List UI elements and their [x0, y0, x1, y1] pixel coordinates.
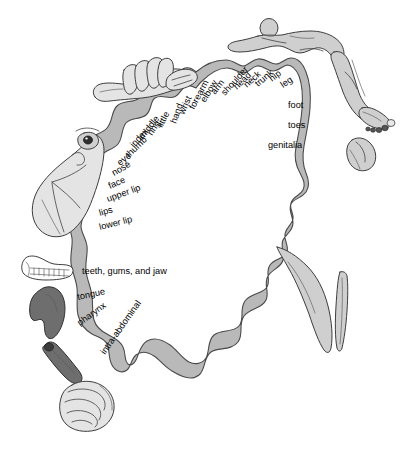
body-trunk-illustration	[228, 19, 344, 64]
label-teeth-gums-jaw: teeth, gums, and jaw	[82, 266, 167, 276]
right-lower-shapes	[277, 247, 348, 352]
label-foot: foot	[288, 100, 304, 110]
homunculus-diagram: handwristforearmelbowarmshoulderheadneck…	[0, 0, 401, 449]
face-illustration	[32, 128, 104, 237]
toe-1	[387, 120, 395, 127]
genitalia-shape	[347, 138, 376, 171]
pupil-highlight	[85, 137, 88, 139]
toe-2	[382, 125, 388, 131]
wing-shape	[277, 247, 332, 352]
face-outline	[32, 135, 104, 237]
jaw-teeth-illustration	[22, 256, 73, 280]
toe-3	[376, 128, 382, 133]
genitalia-illustration	[347, 138, 376, 171]
intestines-mass	[60, 381, 114, 431]
label-lips: lips	[98, 204, 114, 218]
homunculus-figure: handwristforearmelbowarmshoulderheadneck…	[0, 0, 401, 449]
narrow-strip-shape	[335, 272, 347, 351]
tongue-illustration	[30, 287, 65, 339]
hand-illustration	[93, 58, 197, 102]
intra-abdominal-illustration	[60, 381, 114, 431]
leg-foot-illustration	[331, 51, 395, 132]
pupil	[84, 136, 93, 144]
label-toes: toes	[288, 120, 306, 130]
body-trunk-shape	[228, 31, 344, 63]
cortex-labels-group: handwristforearmelbowarmshoulderheadneck…	[75, 64, 305, 356]
toe-4	[371, 128, 376, 132]
toe-5	[366, 127, 370, 131]
label-genitalia: genitalia	[268, 140, 303, 150]
pharynx-illustration	[43, 342, 82, 384]
eyebrow-line	[76, 128, 99, 131]
